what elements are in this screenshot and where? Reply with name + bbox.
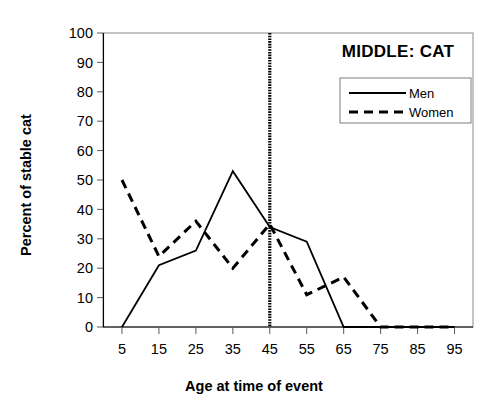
chart-figure: 0 10 20 30 40 50 60 70 80 90 100	[0, 0, 498, 415]
x-tick-label: 5	[118, 341, 126, 357]
y-tick-label: 10	[77, 290, 93, 306]
x-axis-title: Age at time of event	[185, 378, 323, 394]
x-tick-label: 15	[151, 341, 167, 357]
x-tick-label: 55	[299, 341, 315, 357]
x-axis-ticks	[122, 327, 455, 334]
x-tick-label: 25	[188, 341, 204, 357]
x-axis-tick-labels: 5 15 25 35 45 55 65 75 85 95	[118, 341, 463, 357]
legend-label-men: Men	[409, 86, 434, 101]
plot-area	[103, 33, 473, 327]
legend-label-women: Women	[409, 105, 454, 120]
y-tick-label: 30	[77, 231, 93, 247]
y-tick-label: 50	[77, 172, 93, 188]
y-axis-ticks	[97, 33, 103, 327]
y-tick-label: 20	[77, 260, 93, 276]
chart-title: MIDDLE: CAT	[342, 42, 455, 61]
y-tick-label: 60	[77, 143, 93, 159]
y-tick-label: 90	[77, 55, 93, 71]
y-axis-tick-labels: 0 10 20 30 40 50 60 70 80 90 100	[69, 25, 93, 335]
x-tick-label: 75	[373, 341, 389, 357]
y-tick-label: 40	[77, 202, 93, 218]
x-tick-label: 85	[410, 341, 426, 357]
x-tick-label: 65	[336, 341, 352, 357]
y-tick-label: 100	[69, 25, 93, 41]
line-chart: 0 10 20 30 40 50 60 70 80 90 100	[0, 0, 498, 415]
y-tick-label: 80	[77, 84, 93, 100]
x-tick-label: 35	[225, 341, 241, 357]
y-axis-title: Percent of stable cat	[18, 114, 34, 256]
x-tick-label: 45	[262, 341, 278, 357]
y-tick-label: 0	[85, 319, 93, 335]
legend: Men Women	[340, 78, 471, 123]
y-tick-label: 70	[77, 113, 93, 129]
x-tick-label: 95	[446, 341, 462, 357]
